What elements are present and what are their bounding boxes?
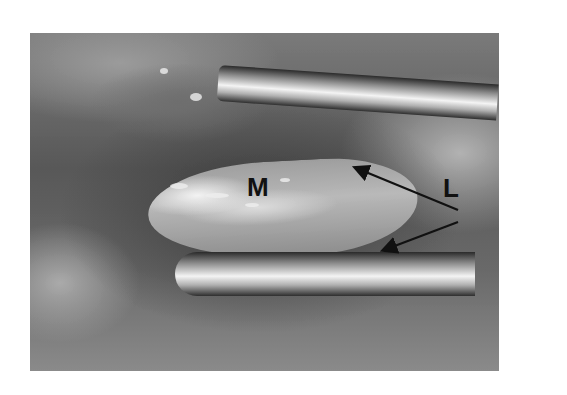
annotation-arrows (0, 0, 567, 395)
label-l: L (443, 173, 459, 204)
label-m: M (247, 172, 269, 203)
arrow-lower (384, 222, 458, 250)
